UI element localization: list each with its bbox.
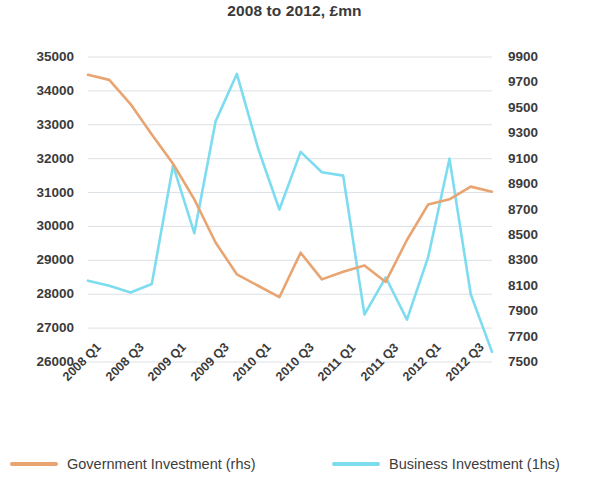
right-axis-tick-7700: 7700	[508, 329, 538, 344]
right-axis-tick-8500: 8500	[508, 227, 538, 242]
legend-label-government: Government Investment (rhs)	[67, 456, 256, 472]
left-axis-tick-32000: 32000	[12, 151, 74, 166]
left-axis-tick-28000: 28000	[12, 286, 74, 301]
right-axis-tick-8300: 8300	[508, 252, 538, 267]
left-axis-tick-34000: 34000	[12, 83, 74, 98]
plot-area	[0, 0, 589, 484]
legend-item-business-investment: Business Investment (1hs)	[332, 456, 560, 472]
right-axis-tick-7500: 7500	[508, 354, 538, 369]
right-axis-tick-8900: 8900	[508, 176, 538, 191]
left-axis-tick-35000: 35000	[12, 49, 74, 64]
legend-label-business: Business Investment (1hs)	[389, 456, 560, 472]
legend-swatch-business-icon	[332, 462, 380, 466]
right-axis-tick-9700: 9700	[508, 74, 538, 89]
left-axis-tick-31000: 31000	[12, 185, 74, 200]
right-axis-tick-8100: 8100	[508, 278, 538, 293]
legend-item-government-investment: Government Investment (rhs)	[10, 456, 256, 472]
right-axis-tick-9900: 9900	[508, 49, 538, 64]
left-axis-tick-30000: 30000	[12, 218, 74, 233]
legend-swatch-government-icon	[10, 462, 58, 466]
right-axis-tick-7900: 7900	[508, 303, 538, 318]
chart-container: 2008 to 2012, £mn 2600027000280002900030…	[0, 0, 589, 484]
left-axis-tick-33000: 33000	[12, 117, 74, 132]
left-axis-tick-26000: 26000	[12, 354, 74, 369]
right-axis-tick-9100: 9100	[508, 151, 538, 166]
right-axis-tick-9500: 9500	[508, 100, 538, 115]
left-axis-tick-29000: 29000	[12, 252, 74, 267]
right-axis-tick-9300: 9300	[508, 125, 538, 140]
chart-legend: Government Investment (rhs) Business Inv…	[0, 452, 589, 484]
series-line-right	[88, 75, 492, 297]
series-line-left	[88, 74, 492, 352]
left-axis-tick-27000: 27000	[12, 320, 74, 335]
right-axis-tick-8700: 8700	[508, 202, 538, 217]
